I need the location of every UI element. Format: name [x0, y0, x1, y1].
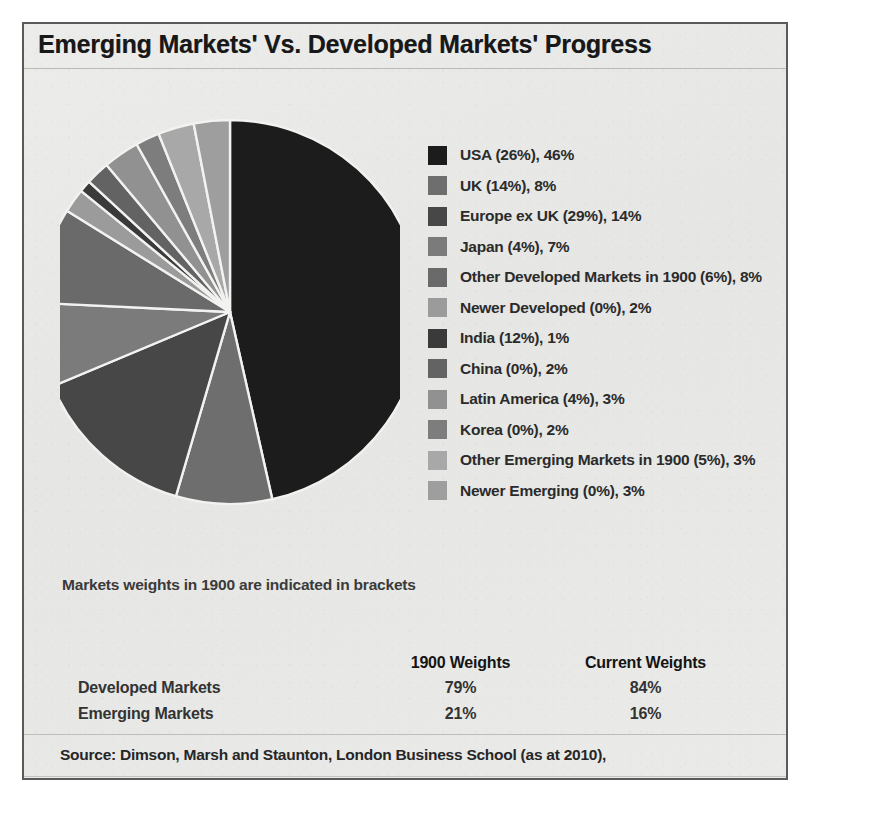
pie-slice-group: [60, 120, 400, 504]
legend-item-label: USA (26%), 46%: [460, 146, 574, 164]
legend-item: Europe ex UK (29%), 14%: [428, 201, 788, 232]
table-cell-weight-1900: 21%: [368, 701, 553, 727]
legend-item: USA (26%), 46%: [428, 140, 788, 171]
legend-item-label: UK (14%), 8%: [460, 177, 556, 195]
legend-item: Newer Emerging (0%), 3%: [428, 476, 788, 507]
legend-item-label: India (12%), 1%: [460, 329, 569, 347]
table-cell-weight-current: 84%: [553, 675, 738, 701]
table-cell-market-label: Developed Markets: [60, 675, 368, 701]
page-title: Emerging Markets' Vs. Developed Markets'…: [38, 30, 651, 59]
weights-table: 1900 Weights Current Weights Developed M…: [60, 644, 760, 727]
column-header-1900-weights: 1900 Weights: [368, 644, 553, 675]
legend-color-swatch: [428, 420, 447, 439]
table-cell-weight-1900: 79%: [368, 675, 553, 701]
column-header-current-weights: Current Weights: [553, 644, 738, 675]
legend-item: China (0%), 2%: [428, 354, 788, 385]
legend-item-label: Other Developed Markets in 1900 (6%), 8%: [460, 268, 762, 286]
legend-color-swatch: [428, 329, 447, 348]
legend-item-label: Newer Developed (0%), 2%: [460, 299, 651, 317]
legend-item-label: Other Emerging Markets in 1900 (5%), 3%: [460, 451, 755, 469]
title-divider: [24, 68, 786, 69]
legend-item: Latin America (4%), 3%: [428, 384, 788, 415]
column-header-blank: [60, 644, 368, 675]
legend-color-swatch: [428, 298, 447, 317]
source-divider-bottom: [24, 776, 786, 777]
legend-color-swatch: [428, 268, 447, 287]
brackets-note: Markets weights in 1900 are indicated in…: [62, 576, 416, 594]
legend-color-swatch: [428, 237, 447, 256]
legend-item-label: Japan (4%), 7%: [460, 238, 569, 256]
legend-item-label: Korea (0%), 2%: [460, 421, 568, 439]
table-cell-weight-current: 16%: [553, 701, 738, 727]
pie-chart: [60, 104, 400, 524]
legend-item-label: Latin America (4%), 3%: [460, 390, 624, 408]
table-row: Developed Markets79%84%: [60, 675, 738, 701]
scanned-page: Emerging Markets' Vs. Developed Markets'…: [0, 0, 878, 820]
legend-item: Newer Developed (0%), 2%: [428, 293, 788, 324]
table-row: Emerging Markets21%16%: [60, 701, 738, 727]
legend-item: Korea (0%), 2%: [428, 415, 788, 446]
legend-color-swatch: [428, 390, 447, 409]
legend-item-label: Newer Emerging (0%), 3%: [460, 482, 645, 500]
legend-color-swatch: [428, 176, 447, 195]
legend-item: Other Emerging Markets in 1900 (5%), 3%: [428, 445, 788, 476]
legend-item: Other Developed Markets in 1900 (6%), 8%: [428, 262, 788, 293]
table-cell-market-label: Emerging Markets: [60, 701, 368, 727]
pie-chart-svg: [60, 104, 400, 524]
legend-color-swatch: [428, 146, 447, 165]
legend-color-swatch: [428, 207, 447, 226]
legend-item: India (12%), 1%: [428, 323, 788, 354]
legend-color-swatch: [428, 359, 447, 378]
chart-legend: USA (26%), 46%UK (14%), 8%Europe ex UK (…: [428, 140, 788, 506]
legend-item-label: China (0%), 2%: [460, 360, 568, 378]
chart-panel: Emerging Markets' Vs. Developed Markets'…: [22, 22, 788, 780]
legend-item-label: Europe ex UK (29%), 14%: [460, 207, 641, 225]
title-bar: Emerging Markets' Vs. Developed Markets'…: [24, 24, 786, 68]
source-divider-top: [24, 734, 786, 735]
legend-color-swatch: [428, 481, 447, 500]
legend-item: UK (14%), 8%: [428, 171, 788, 202]
legend-color-swatch: [428, 451, 447, 470]
table-body: Developed Markets79%84%Emerging Markets2…: [60, 675, 738, 727]
table-header-row: 1900 Weights Current Weights: [60, 644, 738, 675]
legend-item: Japan (4%), 7%: [428, 232, 788, 263]
source-citation: Source: Dimson, Marsh and Staunton, Lond…: [60, 746, 606, 764]
